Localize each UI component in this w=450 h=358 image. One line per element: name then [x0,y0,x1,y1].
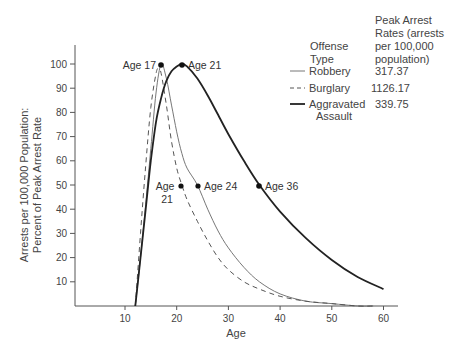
chart: 102030405060708090100 102030405060 Age A… [0,0,450,358]
legend-item-robbery: Robbery 317.37 [290,65,409,77]
y-ticks: 102030405060708090100 [50,59,75,288]
legend-label: Robbery [309,65,351,77]
marker-dot-icon [179,62,185,68]
svg-text:50: 50 [326,313,338,324]
legend-label: Burglary [309,82,350,94]
marker-dot-icon [178,183,183,188]
svg-text:90: 90 [56,83,68,94]
svg-text:10: 10 [119,313,131,324]
y-axis-title-line-2: Percent of Peak Arrest Rate [31,117,43,253]
annotation-robbery-age-24-half: Age 24 [195,180,237,192]
legend-header-rate-line-3: per 100,000 [375,40,434,52]
annotation-label: Age 24 [204,180,237,192]
annotation-label: Age 21 [188,59,221,71]
annotation-label: Age [156,180,175,192]
legend-header-rate-line-2: Rates (arrests [375,27,445,39]
svg-text:10: 10 [56,276,68,287]
svg-text:20: 20 [171,313,183,324]
svg-text:80: 80 [56,107,68,118]
legend-header-rate-line-4: population) [375,53,429,65]
svg-text:30: 30 [56,228,68,239]
legend-header-type-line-2: Type [310,53,334,65]
annotation-label: 21 [161,193,173,205]
svg-text:60: 60 [378,313,390,324]
annotation-label: Age 36 [265,180,298,192]
legend-rate: 339.75 [375,98,409,110]
legend-header-type-line-1: Offense [310,40,348,52]
y-axis-title: Arrests per 100,000 Population: Percent … [18,108,43,263]
svg-text:60: 60 [56,155,68,166]
marker-dot-icon [158,62,164,68]
svg-text:70: 70 [56,131,68,142]
svg-text:50: 50 [56,180,68,191]
legend-header-rate-line-1: Peak Arrest [375,14,432,26]
legend: Offense Type Peak Arrest Rates (arrests … [290,14,445,122]
annotation-burglary-age-21-half: Age 21 [156,180,184,205]
y-axis-title-line-1: Arrests per 100,000 Population: [18,108,30,263]
svg-text:20: 20 [56,252,68,263]
marker-dot-icon [195,183,200,188]
annotation-label: Age 17 [123,59,156,71]
legend-rate: 1126.17 [371,82,410,94]
legend-rate: 317.37 [375,65,409,77]
marker-dot-icon [256,183,262,189]
legend-label-line-1: Aggravated [309,98,365,110]
x-ticks: 102030405060 [119,306,389,324]
legend-item-burglary: Burglary 1126.17 [290,82,410,94]
svg-text:30: 30 [223,313,235,324]
legend-label-line-2: Assault [316,110,352,122]
svg-text:100: 100 [50,59,67,70]
svg-text:40: 40 [56,204,68,215]
svg-text:40: 40 [275,313,287,324]
x-axis-title: Age [226,327,246,339]
legend-item-assault: Aggravated Assault 339.75 [290,98,409,122]
